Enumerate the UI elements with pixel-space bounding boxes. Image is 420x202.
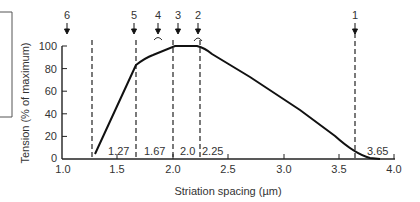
svg-text:4.0: 4.0	[386, 163, 401, 175]
bracket-caps	[154, 38, 202, 42]
svg-text:100: 100	[39, 40, 57, 52]
y-ticks	[62, 46, 67, 136]
svg-text:2.0: 2.0	[165, 163, 180, 175]
y-tick-labels: 100 80 60 40 20 0	[39, 40, 57, 164]
svg-text:40: 40	[45, 108, 57, 120]
svg-text:1.67: 1.67	[144, 145, 165, 157]
svg-text:2.5: 2.5	[220, 163, 235, 175]
marker-arrows	[65, 23, 358, 34]
x-axis-label: Striation spacing (µm)	[174, 185, 281, 197]
top-markers: 6 5 4 3 2 1	[64, 9, 358, 21]
svg-text:4: 4	[155, 9, 161, 21]
svg-text:60: 60	[45, 85, 57, 97]
chart: 100 80 60 40 20 0 1.0 1.5 2.0 2.5 3.0 3.…	[0, 0, 420, 202]
svg-text:3.0: 3.0	[276, 163, 291, 175]
svg-text:80: 80	[45, 63, 57, 75]
svg-text:1.5: 1.5	[109, 163, 124, 175]
svg-text:1.27: 1.27	[108, 145, 129, 157]
svg-text:1.0: 1.0	[55, 163, 70, 175]
length-tension-curve	[95, 46, 380, 159]
inset-frame	[0, 12, 12, 117]
svg-text:20: 20	[45, 130, 57, 142]
reference-lines	[92, 33, 355, 159]
svg-text:2.0: 2.0	[180, 145, 195, 157]
x-tick-labels: 1.0 1.5 2.0 2.5 3.0 3.5 4.0	[55, 163, 401, 175]
svg-text:3.65: 3.65	[367, 145, 388, 157]
svg-text:5: 5	[131, 9, 137, 21]
svg-text:2: 2	[195, 9, 201, 21]
svg-text:6: 6	[64, 9, 70, 21]
y-axis-label: Tension (% of maximum)	[19, 42, 31, 163]
svg-text:3: 3	[175, 9, 181, 21]
svg-text:1: 1	[352, 9, 358, 21]
svg-text:2.25: 2.25	[202, 145, 223, 157]
svg-text:3.5: 3.5	[331, 163, 346, 175]
reference-labels: 1.27 1.67 2.0 2.25 3.65	[108, 145, 388, 157]
